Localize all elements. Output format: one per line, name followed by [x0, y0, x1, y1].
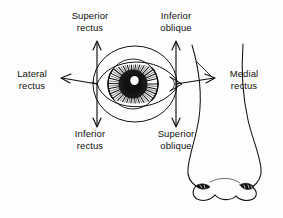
label-superior-rectus: Superior rectus: [60, 10, 120, 33]
label-inferior-rectus: Inferior rectus: [60, 128, 120, 151]
label-inferior-oblique-line2: oblique: [146, 22, 206, 34]
label-superior-rectus-line2: rectus: [60, 22, 120, 34]
lateral-rectus-arrow: [61, 74, 97, 84]
label-inferior-rectus-line2: rectus: [60, 140, 120, 152]
figure-svg: [0, 0, 283, 218]
label-inferior-rectus-line1: Inferior: [60, 128, 120, 140]
anatomy-figure: Superior rectus Inferior oblique Lateral…: [0, 0, 283, 218]
label-inferior-oblique-line1: Inferior: [146, 10, 206, 22]
inferior-oblique-arrow: [172, 41, 180, 84]
label-medial-rectus: Medial rectus: [216, 68, 272, 91]
label-medial-rectus-line2: rectus: [216, 80, 272, 92]
label-lateral-rectus-line1: Lateral: [6, 68, 58, 80]
eye-drawing: [92, 46, 182, 122]
label-medial-rectus-line1: Medial: [216, 68, 272, 80]
medial-rectus-arrow: [176, 62, 215, 84]
label-superior-oblique: Superior oblique: [146, 128, 206, 151]
superior-oblique-arrow: [172, 84, 180, 127]
label-lateral-rectus: Lateral rectus: [6, 68, 58, 91]
label-superior-oblique-line2: oblique: [146, 140, 206, 152]
label-inferior-oblique: Inferior oblique: [146, 10, 206, 33]
label-superior-oblique-line1: Superior: [146, 128, 206, 140]
label-superior-rectus-line1: Superior: [60, 10, 120, 22]
label-lateral-rectus-line2: rectus: [6, 80, 58, 92]
